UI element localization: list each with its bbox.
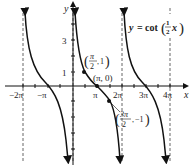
- svg-text:1: 1: [100, 57, 104, 66]
- svg-text:=: =: [137, 22, 143, 33]
- svg-text:π: π: [90, 52, 95, 61]
- y-tick-1: 1: [62, 68, 67, 78]
- x-axis-label: x: [183, 89, 189, 100]
- leader-line: [110, 102, 120, 112]
- y-axis-label: y: [63, 3, 69, 14]
- svg-text:3π: 3π: [119, 110, 129, 119]
- label-pi: (π, 0): [93, 73, 113, 83]
- svg-text:y: y: [128, 22, 134, 33]
- x-tick-neg-2pi: −2π: [9, 90, 24, 100]
- point-pi-over-2: [82, 70, 86, 74]
- label-pi-over-2: ( π 2 , 1 ): [84, 52, 110, 71]
- svg-text:,: ,: [97, 57, 99, 66]
- label-3pi-over-2: ( 3π 2 , −1 ): [115, 110, 150, 129]
- x-tick-neg-pi: −π: [37, 90, 47, 100]
- x-tick-pi: π: [93, 90, 98, 100]
- svg-text:2: 2: [166, 28, 170, 36]
- y-tick-3: 3: [62, 36, 67, 46]
- point-pi: [95, 84, 99, 88]
- svg-text:): ): [105, 54, 110, 70]
- svg-text:2: 2: [90, 62, 94, 71]
- svg-text:cot: cot: [145, 22, 158, 33]
- svg-text:−1: −1: [135, 115, 144, 124]
- cotangent-graph: y x 3 1 −2π −π π 2π 3π 4π ( π 2 , 1 ) (π…: [0, 0, 192, 168]
- svg-text:2: 2: [122, 120, 126, 129]
- x-tick-2pi: 2π: [113, 90, 123, 100]
- svg-text:): ): [179, 20, 184, 37]
- svg-text:x: x: [171, 22, 177, 33]
- svg-text:): ): [145, 112, 150, 128]
- svg-text:,: ,: [132, 115, 134, 124]
- x-tick-4pi: 4π: [163, 90, 173, 100]
- equation-label: y = cot ( 1 2 x ): [127, 14, 185, 38]
- x-tick-3pi: 3π: [139, 90, 149, 100]
- svg-text:1: 1: [166, 19, 170, 27]
- svg-text:(: (: [84, 54, 89, 70]
